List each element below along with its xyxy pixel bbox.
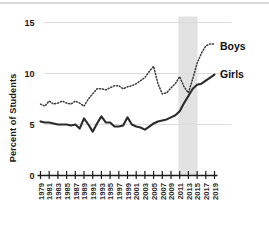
x-tick-label: 1987 [72, 183, 81, 200]
x-tick-label: 1997 [115, 183, 124, 200]
x-tick-label: 2015 [193, 182, 202, 200]
x-tick-label: 2007 [159, 183, 168, 200]
x-tick-label: 1993 [98, 183, 107, 200]
series-label-boys: Boys [220, 40, 246, 52]
x-tick-label: 1985 [63, 182, 72, 200]
x-tick-label: 1983 [54, 183, 63, 200]
y-tick-label: 15 [24, 18, 34, 28]
x-tick-label: 2011 [176, 182, 185, 199]
x-tick-label: 1991 [89, 182, 98, 200]
x-tick-label: 1981 [45, 182, 54, 200]
x-tick-label: 2003 [141, 183, 150, 200]
x-tick-label: 1979 [37, 183, 46, 200]
x-axis-tick-labels: 1979198119831985198719891991199319951997… [37, 182, 220, 200]
gridlines [45, 23, 232, 125]
chart-container: 051015 Percent of Students 1979198119831… [0, 0, 269, 225]
x-tick-label: 1989 [80, 183, 89, 200]
x-tick-label: 2019 [211, 183, 220, 200]
y-tick-label: 5 [29, 120, 34, 130]
x-tick-label: 1999 [124, 183, 133, 200]
x-tick-label: 2009 [167, 183, 176, 200]
series-label-girls: Girls [220, 68, 244, 80]
x-tick-label: 2013 [185, 183, 194, 200]
x-tick-label: 1995 [106, 182, 115, 200]
x-tick-label: 2017 [202, 183, 211, 200]
y-axis-title: Percent of Students [8, 74, 18, 163]
y-tick-label: 10 [24, 69, 34, 79]
line-chart: 051015 Percent of Students 1979198119831… [0, 0, 269, 225]
x-axis-tickmarks [41, 171, 215, 179]
x-tick-label: 2001 [132, 182, 141, 200]
x-tick-label: 2005 [150, 182, 159, 200]
y-tick-label: 0 [29, 171, 34, 181]
y-axis-ticks: 051015 [24, 18, 34, 181]
